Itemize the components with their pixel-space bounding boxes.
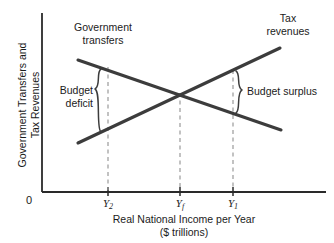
x-tick-label-y2-sub: 2	[109, 202, 113, 211]
budget-deficit-label: Budget deficit	[43, 84, 93, 109]
budget-surplus-brace	[236, 71, 242, 113]
budget-deficit-label-line2: deficit	[66, 97, 93, 109]
x-tick-label-y1: Y1	[221, 197, 245, 212]
economics-figure: Government Transfers and Tax Revenues 0 …	[0, 0, 334, 243]
x-tick-label-yf: Yf	[168, 197, 192, 212]
origin-label: 0	[26, 194, 32, 206]
x-tick-label-yf-sub: f	[182, 202, 184, 211]
x-tick-label-y2: Y2	[96, 197, 120, 212]
y-axis-title-line1: Government Transfers and	[16, 43, 28, 168]
x-axis-title: Real National Income per Year ($ trillio…	[42, 213, 326, 238]
government-transfers-label: Government transfers	[48, 21, 158, 46]
y-axis-title-line2: Tax Revenues	[29, 72, 41, 139]
y-axis-title: Government Transfers and Tax Revenues	[16, 20, 42, 190]
x-axis-title-line2: ($ trillions)	[160, 226, 208, 238]
budget-deficit-brace	[95, 69, 101, 132]
x-axis-title-line1: Real National Income per Year	[113, 213, 255, 225]
budget-deficit-label-line1: Budget	[60, 84, 93, 96]
government-transfers-label-line2: transfers	[83, 34, 124, 46]
government-transfers-label-line1: Government	[74, 21, 132, 33]
x-tick-label-y1-sub: 1	[234, 202, 238, 211]
budget-surplus-label: Budget surplus	[247, 85, 317, 98]
tax-revenues-label-line2: revenues	[266, 25, 309, 37]
tax-revenues-label-line1: Tax	[280, 12, 296, 24]
tax-revenues-label: Tax revenues	[252, 12, 324, 37]
